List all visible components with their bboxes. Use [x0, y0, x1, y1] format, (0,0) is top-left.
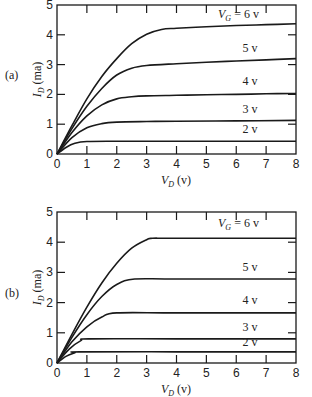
curve-label: 4 v — [243, 293, 258, 307]
curve-label: 3 v — [243, 320, 258, 334]
curve-label: 5 v — [243, 260, 258, 274]
x-tick-label: 3 — [143, 157, 150, 171]
x-tick-label: 2 — [113, 366, 120, 380]
panel-label: (a) — [5, 68, 18, 82]
x-tick-label: 0 — [54, 366, 61, 380]
curve-vg-5 — [57, 279, 296, 363]
curve-vg-5 — [57, 59, 296, 154]
y-tick-label: 2 — [46, 296, 53, 310]
curve-label: 2 v — [243, 122, 258, 136]
curve-label: 5 v — [243, 41, 258, 55]
plot-frame — [57, 212, 296, 363]
x-tick-label: 6 — [233, 157, 240, 171]
x-tick-label: 5 — [203, 366, 210, 380]
y-tick-label: 5 — [46, 0, 53, 12]
x-tick-label: 0 — [54, 157, 61, 171]
y-tick-label: 4 — [46, 235, 53, 249]
panel-label: (b) — [5, 286, 19, 300]
curve-label: VG= 6 v — [218, 7, 259, 23]
y-axis-label: ID (ma) — [30, 62, 46, 98]
panel-a: 012345678012345VG= 6 v5 v4 v3 v2 vVD (v)… — [5, 0, 300, 189]
curve-label: 2 v — [243, 335, 258, 349]
y-tick-label: 4 — [46, 28, 53, 42]
y-tick-label: 0 — [46, 147, 53, 161]
x-tick-label: 7 — [263, 366, 270, 380]
x-tick-label: 1 — [84, 366, 91, 380]
y-axis-label: ID (ma) — [30, 270, 46, 306]
x-tick-label: 5 — [203, 157, 210, 171]
x-tick-label: 4 — [173, 157, 180, 171]
y-tick-label: 1 — [46, 326, 53, 340]
curve-label: VG= 6 v — [218, 216, 259, 232]
y-tick-label: 0 — [46, 356, 53, 370]
x-tick-label: 4 — [173, 366, 180, 380]
x-tick-label: 7 — [263, 157, 270, 171]
y-tick-label: 1 — [46, 117, 53, 131]
curve-label: 3 v — [243, 102, 258, 116]
panel-b: 012345678012345VG= 6 v5 v4 v3 v2 vVD (v)… — [5, 205, 300, 397]
x-axis-label: VD (v) — [161, 382, 191, 397]
x-tick-label: 8 — [293, 366, 300, 380]
y-tick-label: 5 — [46, 205, 53, 219]
x-tick-label: 3 — [143, 366, 150, 380]
curve-label: 4 v — [243, 74, 258, 88]
curve-vg-6 — [57, 238, 296, 363]
x-tick-label: 1 — [84, 157, 91, 171]
x-tick-label: 8 — [293, 157, 300, 171]
y-tick-label: 2 — [46, 87, 53, 101]
x-tick-label: 2 — [113, 157, 120, 171]
x-tick-label: 6 — [233, 366, 240, 380]
y-tick-label: 3 — [46, 265, 53, 279]
y-tick-label: 3 — [46, 58, 53, 72]
curve-vg-4 — [57, 94, 296, 154]
curve-vg-6 — [57, 24, 296, 154]
chart-canvas: 012345678012345VG= 6 v5 v4 v3 v2 vVD (v)… — [0, 0, 312, 397]
x-axis-label: VD (v) — [161, 173, 191, 189]
plot-frame — [57, 5, 296, 154]
